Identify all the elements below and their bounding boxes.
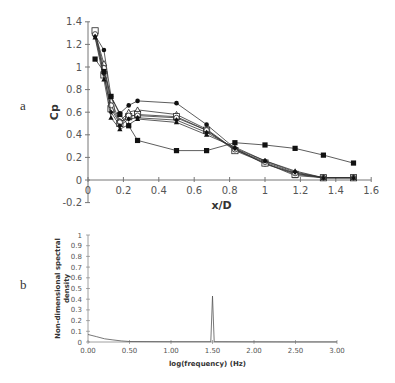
x-tick-label: 0.2 — [115, 185, 131, 196]
x-tick-label: 1 — [262, 185, 268, 196]
triangle-marker — [108, 115, 113, 120]
y-tick-label: 0.2 — [71, 317, 82, 325]
series-line — [95, 34, 353, 178]
square-marker — [101, 69, 106, 74]
chart-a-cp-vs-xd: -0.200.20.40.60.811.21.400.20.40.60.811.… — [0, 0, 395, 383]
series-line — [95, 33, 353, 178]
x-tick-label: 2.00 — [246, 347, 262, 355]
chart-a: -0.200.20.40.60.811.21.400.20.40.60.811.… — [48, 16, 379, 212]
series-line — [95, 31, 353, 178]
square-marker — [92, 56, 97, 61]
y-axis-title: Non-dimensional spectral — [54, 238, 62, 339]
y-tick-label: 1 — [78, 232, 82, 240]
square-marker — [321, 153, 326, 158]
series-line — [95, 38, 353, 178]
series-filled-diamond — [93, 34, 356, 181]
series-open-triangle — [92, 30, 356, 180]
y-tick-label: 1.2 — [66, 39, 82, 50]
y-tick-label: 1.4 — [66, 16, 82, 27]
y-axis-title: Cp — [48, 104, 61, 120]
y-tick-label: 0.6 — [66, 107, 82, 118]
y-axis-title-line2: density — [63, 273, 71, 303]
y-tick-label: 0.4 — [71, 296, 83, 304]
x-tick-label: 0.4 — [151, 185, 167, 196]
x-tick-label: 0 — [85, 185, 91, 196]
square-marker — [292, 146, 297, 151]
y-tick-label: 0.2 — [66, 152, 82, 163]
square-marker — [351, 160, 356, 165]
y-tick-label: 0.6 — [71, 274, 83, 282]
chart-b: 00.10.20.30.40.50.60.70.80.910.000.501.0… — [54, 232, 345, 369]
y-tick-label: 0 — [78, 339, 82, 347]
y-tick-label: 0.3 — [71, 306, 82, 314]
x-tick-label: 1.6 — [363, 185, 379, 196]
y-tick-label: 0.8 — [71, 253, 82, 261]
square-marker — [232, 140, 237, 145]
x-axis-title: log(frequency) (Hz) — [169, 360, 246, 368]
series-line — [95, 37, 353, 178]
x-tick-label: 0.8 — [222, 185, 238, 196]
y-tick-label: 0.4 — [66, 129, 82, 140]
x-tick-label: 0.6 — [186, 185, 202, 196]
x-tick-label: 3.00 — [329, 347, 345, 355]
square-marker — [204, 148, 209, 153]
square-marker — [126, 123, 131, 128]
x-tick-label: 1.00 — [163, 347, 179, 355]
x-axis-title: x/D — [211, 199, 231, 212]
circle-marker — [135, 99, 140, 104]
x-tick-label: 2.50 — [288, 347, 304, 355]
y-tick-label: 1 — [76, 62, 82, 73]
y-tick-label: 0.7 — [71, 264, 82, 272]
y-tick-label: 0 — [76, 175, 82, 186]
square-marker — [108, 94, 113, 99]
square-marker — [117, 112, 122, 117]
series-open-circle — [92, 32, 356, 181]
x-tick-label: 1.50 — [205, 347, 221, 355]
y-tick-label: 0.8 — [66, 84, 82, 95]
series-line — [95, 35, 353, 177]
y-tick-label: 0.9 — [71, 242, 82, 250]
y-tick-label: -0.2 — [62, 197, 82, 208]
x-tick-label: 1.2 — [292, 185, 308, 196]
series-filled-circle — [93, 33, 356, 180]
square-marker — [174, 148, 179, 153]
square-marker — [262, 142, 267, 147]
y-tick-label: 0.1 — [71, 328, 82, 336]
circle-marker — [174, 101, 179, 106]
square-marker — [135, 138, 140, 143]
circle-marker — [102, 48, 107, 53]
x-tick-label: 0.50 — [122, 347, 138, 355]
spectrum-line — [88, 296, 337, 342]
circle-marker — [126, 103, 131, 108]
y-tick-label: 0.5 — [71, 285, 82, 293]
x-tick-label: 1.4 — [328, 185, 344, 196]
series-filled-triangle — [92, 35, 356, 180]
x-tick-label: 0.00 — [80, 347, 96, 355]
